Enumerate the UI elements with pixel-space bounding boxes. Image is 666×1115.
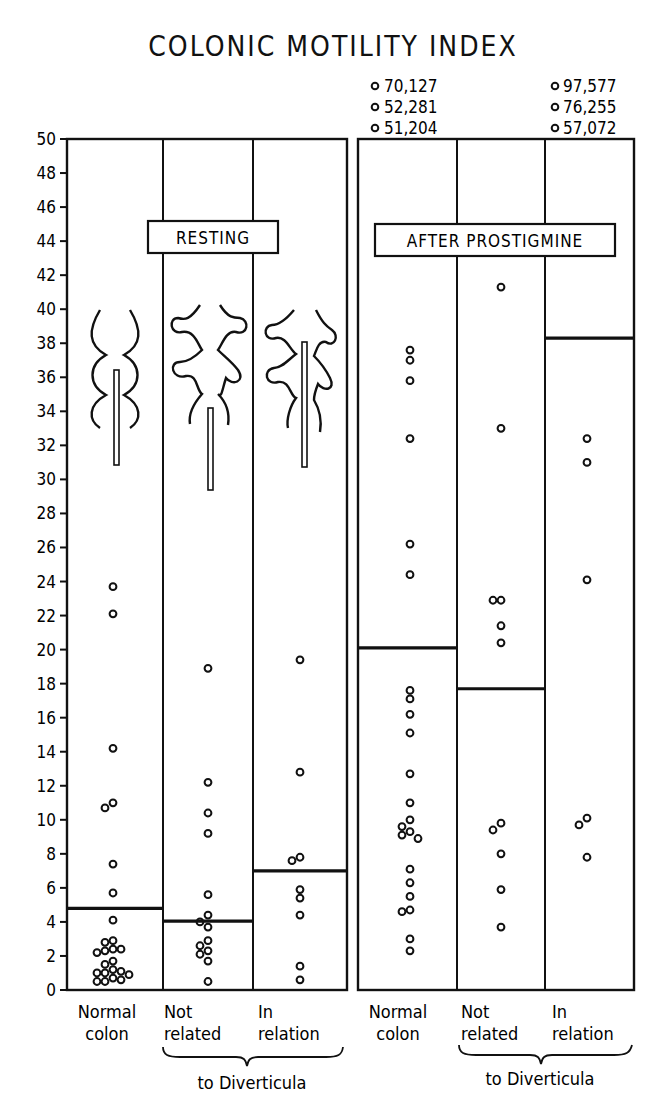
data-point — [205, 891, 212, 898]
data-point — [407, 711, 414, 718]
y-tick-label: 14 — [37, 742, 56, 762]
data-point — [110, 946, 117, 953]
y-tick-label: 16 — [37, 708, 56, 728]
data-point — [102, 978, 109, 985]
data-point — [552, 83, 559, 90]
data-point — [407, 947, 414, 954]
y-tick-label: 38 — [37, 333, 56, 353]
y-tick-label: 50 — [37, 129, 56, 149]
data-point — [407, 879, 414, 886]
data-point — [118, 976, 125, 983]
data-point — [118, 968, 125, 975]
data-point — [407, 770, 414, 777]
y-tick-label: 8 — [46, 844, 56, 864]
outlier-value: 97,577 — [563, 76, 617, 96]
data-point — [584, 435, 591, 442]
data-point — [407, 866, 414, 873]
data-point — [407, 936, 414, 943]
data-point — [372, 83, 379, 90]
data-point — [407, 893, 414, 900]
caption-to-diverticula-right: to Diverticula — [485, 1068, 594, 1089]
caption-to-diverticula-left: to Diverticula — [197, 1072, 306, 1093]
offscale-in-relation-after: 97,577 76,255 57,072 — [552, 76, 617, 138]
brace-left-icon — [163, 1047, 343, 1066]
data-points — [94, 284, 591, 985]
colon-schematic-normal-icon — [92, 310, 139, 465]
y-tick-label: 20 — [37, 640, 56, 660]
y-tick-label: 12 — [37, 776, 56, 796]
data-point — [552, 125, 559, 132]
category-label: related — [164, 1023, 221, 1044]
y-axis: 0246810121416182022242628303234363840424… — [37, 129, 67, 1000]
data-point — [297, 854, 304, 861]
category-label: Not — [164, 1001, 192, 1022]
y-tick-label: 36 — [37, 367, 56, 387]
data-point — [498, 639, 505, 646]
y-tick-label: 48 — [37, 163, 56, 183]
y-tick-label: 28 — [37, 503, 56, 523]
data-point — [197, 951, 204, 958]
data-point — [407, 816, 414, 823]
data-point — [552, 104, 559, 111]
data-point — [297, 656, 304, 663]
data-point — [102, 939, 109, 946]
data-point — [498, 820, 505, 827]
data-point — [407, 828, 414, 835]
category-label: relation — [552, 1023, 614, 1044]
data-point — [110, 745, 117, 752]
data-point — [110, 975, 117, 982]
offscale-annotations: 70,127 52,281 51,204 97,577 76,255 57,07… — [372, 76, 617, 138]
data-point — [94, 978, 101, 985]
data-point — [407, 541, 414, 548]
y-tick-label: 4 — [46, 912, 56, 932]
data-point — [118, 946, 125, 953]
data-point — [110, 610, 117, 617]
y-tick-label: 46 — [37, 197, 56, 217]
data-point — [297, 886, 304, 893]
chart-title: COLONIC MOTILITY INDEX — [148, 30, 518, 63]
data-point — [297, 963, 304, 970]
data-point — [205, 912, 212, 919]
outlier-value: 70,127 — [384, 76, 438, 96]
data-point — [584, 854, 591, 861]
prostigmine-label: AFTER PROSTIGMINE — [407, 231, 584, 251]
data-point — [407, 571, 414, 578]
data-point — [372, 104, 379, 111]
outlier-value: 51,204 — [384, 118, 438, 138]
data-point — [297, 895, 304, 902]
data-point — [205, 924, 212, 931]
category-label: Normal — [78, 1001, 137, 1022]
data-point — [576, 822, 583, 829]
data-point — [205, 830, 212, 837]
data-point — [205, 958, 212, 965]
data-point — [498, 924, 505, 931]
y-tick-label: 34 — [37, 401, 56, 421]
outlier-value: 52,281 — [384, 97, 438, 117]
data-point — [415, 835, 422, 842]
category-label: Normal — [369, 1001, 428, 1022]
data-point — [110, 966, 117, 973]
data-point — [205, 947, 212, 954]
y-tick-label: 40 — [37, 299, 56, 319]
brace-right-icon — [459, 1045, 632, 1064]
data-point — [407, 687, 414, 694]
data-point — [110, 583, 117, 590]
data-point — [94, 949, 101, 956]
resting-label-box: RESTING — [148, 221, 278, 253]
data-point — [407, 907, 414, 914]
data-point — [197, 942, 204, 949]
outlier-value: 76,255 — [563, 97, 617, 117]
offscale-normal-colon-after: 70,127 52,281 51,204 — [372, 76, 438, 138]
data-point — [205, 665, 212, 672]
category-label: related — [461, 1023, 518, 1044]
data-point — [205, 937, 212, 944]
category-label: colon — [85, 1023, 128, 1044]
data-point — [110, 937, 117, 944]
data-point — [110, 958, 117, 965]
data-point — [205, 779, 212, 786]
data-point — [399, 908, 406, 915]
data-point — [399, 823, 406, 830]
data-point — [102, 947, 109, 954]
category-label: In — [552, 1001, 567, 1022]
outlier-value: 57,072 — [563, 118, 617, 138]
